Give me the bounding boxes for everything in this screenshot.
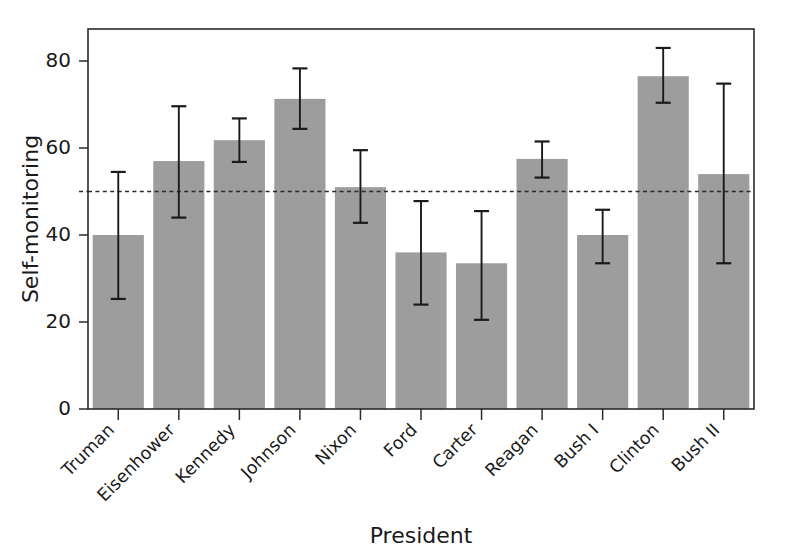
y-tick-label-20: 20 <box>46 309 71 333</box>
bar-kennedy <box>214 140 265 409</box>
y-axis-title: Self-monitoring <box>18 135 43 303</box>
chart-svg: 020406080 TrumanEisenhowerKennedyJohnson… <box>0 0 791 557</box>
y-tick-label-0: 0 <box>58 396 71 420</box>
y-axis-tick-labels: 020406080 <box>46 48 71 420</box>
bar-johnson <box>274 99 325 409</box>
x-tick-label-johnson: Johnson <box>236 420 300 484</box>
x-tick-label-ford: Ford <box>380 420 421 461</box>
x-tick-label-kennedy: Kennedy <box>171 420 239 488</box>
x-axis-tick-labels: TrumanEisenhowerKennedyJohnsonNixonFordC… <box>57 419 723 505</box>
x-axis-ticks <box>118 409 723 420</box>
bar-clinton <box>638 76 689 409</box>
y-tick-label-40: 40 <box>46 222 71 246</box>
y-tick-label-80: 80 <box>46 48 71 72</box>
x-tick-label-clinton: Clinton <box>605 420 663 478</box>
x-tick-label-bush-ii: Bush II <box>668 420 724 476</box>
bar-reagan <box>517 159 568 409</box>
x-axis-title: President <box>370 523 473 548</box>
x-tick-label-bush-i: Bush I <box>550 420 602 472</box>
x-tick-label-reagan: Reagan <box>481 420 542 481</box>
y-tick-label-60: 60 <box>46 135 71 159</box>
self-monitoring-bar-chart: 020406080 TrumanEisenhowerKennedyJohnson… <box>0 0 791 557</box>
x-tick-label-truman: Truman <box>57 420 118 481</box>
x-tick-label-nixon: Nixon <box>311 420 360 469</box>
y-axis-ticks <box>79 61 88 409</box>
x-tick-label-carter: Carter <box>428 419 482 473</box>
